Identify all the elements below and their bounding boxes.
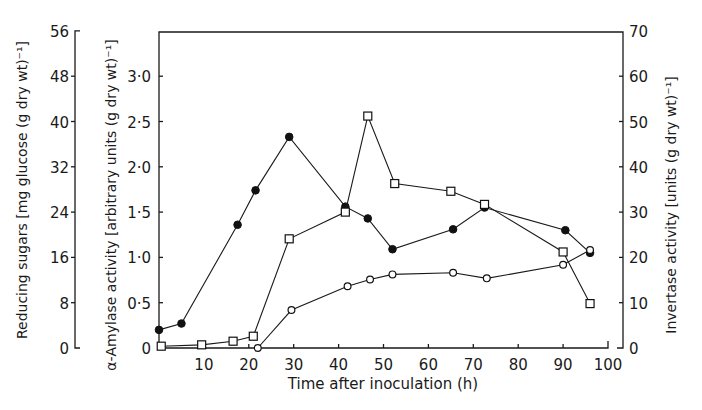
marker-open-square [586, 300, 594, 308]
left-inner-tick-label: 2·0 [127, 159, 151, 177]
left-outer-tick-label: 56 [50, 23, 69, 41]
series-line [258, 250, 590, 348]
marker-open-square [364, 112, 372, 120]
x-tick-label: 80 [509, 356, 528, 374]
marker-open-circle [560, 261, 567, 268]
right-tick-label: 20 [629, 249, 648, 267]
marker-filled-circle [562, 226, 570, 234]
marker-open-square [481, 200, 489, 208]
plot-frame [159, 32, 623, 348]
left-outer-tick-label: 8 [59, 295, 69, 313]
x-tick-label: 70 [464, 356, 483, 374]
right-tick-label: 70 [629, 23, 648, 41]
marker-open-square [341, 208, 349, 216]
left-inner-axis-title: α-Amylase activity [arbitrary units (g d… [103, 39, 119, 370]
marker-open-circle [344, 283, 351, 290]
left-inner-tick-label: 1·0 [127, 249, 151, 267]
marker-open-square [559, 248, 567, 256]
chart: 1020304050607080901000816243240485600·51… [0, 0, 702, 410]
x-tick-label: 40 [329, 356, 348, 374]
marker-filled-circle [364, 215, 372, 223]
left-inner-tick-label: 2·5 [127, 114, 151, 132]
marker-filled-circle [178, 320, 186, 328]
left-outer-tick-label: 16 [50, 249, 69, 267]
x-tick-label: 50 [374, 356, 393, 374]
marker-filled-circle [234, 221, 242, 229]
marker-open-square [249, 332, 257, 340]
left-inner-tick-label: 0 [141, 340, 151, 358]
marker-filled-circle [252, 187, 260, 195]
marker-open-circle [389, 271, 396, 278]
right-tick-label: 50 [629, 114, 648, 132]
left-inner-tick-label: 1·5 [127, 204, 151, 222]
right-tick-label: 60 [629, 68, 648, 86]
left-outer-tick-label: 32 [50, 159, 69, 177]
left-outer-axis-line [75, 31, 80, 348]
left-inner-tick-label: 3·0 [127, 68, 151, 86]
x-tick-label: 60 [419, 356, 438, 374]
marker-filled-circle [285, 133, 293, 141]
right-tick-label: 40 [629, 159, 648, 177]
right-tick-label: 30 [629, 204, 648, 222]
marker-open-square [157, 342, 165, 350]
marker-filled-circle [155, 326, 163, 334]
left-outer-tick-label: 48 [50, 68, 69, 86]
x-tick-label: 10 [194, 356, 213, 374]
right-tick-label: 0 [629, 340, 639, 358]
marker-open-square [391, 180, 399, 188]
x-axis-title: Time after inoculation (h) [287, 375, 478, 393]
marker-open-square [198, 341, 206, 349]
series-line [161, 116, 590, 346]
series-line [159, 137, 590, 330]
marker-open-square [229, 337, 237, 345]
right-axis-title: Invertase activity [units (g dry wt)⁻¹] [663, 76, 679, 334]
right-tick-label: 10 [629, 295, 648, 313]
x-tick-label: 90 [554, 356, 573, 374]
x-tick-label: 20 [239, 356, 258, 374]
x-tick-label: 30 [284, 356, 303, 374]
marker-open-circle [450, 269, 457, 276]
left-outer-tick-label: 24 [50, 204, 69, 222]
marker-open-circle [587, 247, 594, 254]
x-tick-label: 100 [594, 356, 623, 374]
marker-filled-circle [449, 226, 457, 234]
marker-open-square [447, 187, 455, 195]
left-outer-tick-label: 0 [59, 340, 69, 358]
marker-open-circle [483, 275, 490, 282]
marker-open-square [285, 235, 293, 243]
marker-open-circle [254, 345, 261, 352]
marker-filled-circle [389, 245, 397, 253]
left-outer-tick-label: 40 [50, 114, 69, 132]
left-outer-axis-title: Reducing sugars [mg glucose (g dry wt)⁻¹… [14, 41, 30, 339]
data-series [155, 112, 594, 351]
marker-open-circle [288, 307, 295, 314]
left-inner-tick-label: 0·5 [127, 295, 151, 313]
marker-open-circle [367, 276, 374, 283]
